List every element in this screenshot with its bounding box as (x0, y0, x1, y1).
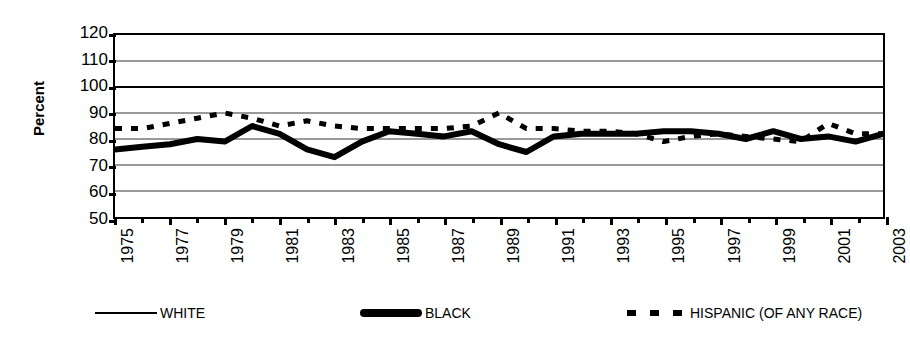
y-tick-label: 120 (62, 24, 108, 41)
y-tick-label: 60 (62, 183, 108, 200)
legend-label: HISPANIC (OF ANY RACE) (690, 305, 862, 321)
cropped-title-sliver (240, 0, 670, 5)
x-axis-tick-labels: 1975197719791981198319851987198919911993… (113, 222, 885, 292)
thin-line-swatch (95, 306, 157, 320)
x-tick-label: 1991 (561, 228, 577, 264)
x-tick-label: 1977 (175, 228, 191, 264)
y-tick-label: 100 (62, 77, 108, 94)
x-tick-label: 1989 (506, 228, 522, 264)
plot-area (113, 33, 885, 219)
x-tick-label: 1985 (396, 228, 412, 264)
x-tick-label: 1995 (671, 228, 687, 264)
chart-legend: WHITEBLACKHISPANIC (OF ANY RACE) (95, 300, 855, 330)
y-tick-label: 80 (62, 130, 108, 147)
y-axis-title: Percent (30, 49, 47, 169)
legend-label: WHITE (160, 305, 205, 321)
x-tick-label: 1997 (727, 228, 743, 264)
x-tick-label: 1981 (285, 228, 301, 264)
legend-item: WHITE (95, 300, 205, 326)
gridlines (115, 61, 883, 191)
series-line (115, 126, 883, 157)
x-axis-tick (886, 217, 889, 225)
x-tick-label: 2003 (892, 228, 908, 264)
y-tick-label: 50 (62, 210, 108, 227)
legend-item: BLACK (360, 300, 471, 326)
x-tick-label: 1979 (230, 228, 246, 264)
x-tick-label: 1975 (120, 228, 136, 264)
plot-svg (115, 35, 883, 217)
y-axis-tick (109, 87, 116, 90)
x-tick-label: 1983 (341, 228, 357, 264)
x-tick-label: 1987 (451, 228, 467, 264)
y-axis-tick (109, 113, 116, 116)
x-tick-label: 1999 (782, 228, 798, 264)
y-axis-tick (109, 193, 116, 196)
x-tick-label: 2001 (837, 228, 853, 264)
legend-item: HISPANIC (OF ANY RACE) (625, 300, 862, 326)
dashed-line-swatch (625, 306, 687, 320)
line-chart: Percent 1201101009080706050 197519771979… (0, 0, 910, 355)
legend-label: BLACK (425, 305, 471, 321)
y-axis-tick (109, 34, 116, 37)
y-tick-label: 70 (62, 157, 108, 174)
y-tick-label: 90 (62, 104, 108, 121)
series-lines (115, 87, 883, 157)
y-tick-label: 110 (62, 51, 108, 68)
y-axis-tick (109, 60, 116, 63)
y-axis-tick (109, 140, 116, 143)
thick-line-swatch (360, 306, 422, 320)
y-axis-tick (109, 166, 116, 169)
x-tick-label: 1993 (616, 228, 632, 264)
